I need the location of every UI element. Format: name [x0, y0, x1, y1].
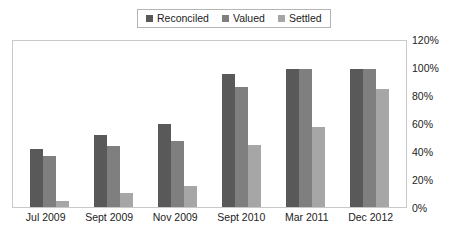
legend-swatch-icon: [146, 15, 153, 22]
bar-group: [94, 41, 133, 207]
y-axis-tick: 120%: [412, 35, 439, 46]
bar-valued[interactable]: [171, 141, 184, 207]
x-axis-tick: Sept 2010: [217, 212, 265, 223]
y-axis-tick: 20%: [412, 175, 433, 186]
x-axis-tick: Mar 2011: [285, 212, 329, 223]
bar-reconciled[interactable]: [222, 74, 235, 207]
bar-reconciled[interactable]: [350, 69, 363, 207]
legend-item-settled[interactable]: Settled: [278, 13, 322, 24]
bar-settled[interactable]: [184, 186, 197, 207]
y-axis-tick: 60%: [412, 119, 433, 130]
y-axis-tick: 0%: [412, 203, 427, 214]
legend-item-valued[interactable]: Valued: [222, 13, 265, 24]
plot-frame: [12, 40, 407, 208]
bar-reconciled[interactable]: [30, 149, 43, 207]
x-axis-tick: Dec 2012: [348, 212, 393, 223]
bar-group: [158, 41, 197, 207]
bar-valued[interactable]: [363, 69, 376, 207]
x-axis: Jul 2009Sept 2009Nov 2009Sept 2010Mar 20…: [12, 212, 407, 232]
bar-group: [286, 41, 325, 207]
bar-valued[interactable]: [107, 146, 120, 207]
legend-label: Settled: [289, 13, 322, 24]
bar-reconciled[interactable]: [158, 124, 171, 207]
bar-reconciled[interactable]: [286, 69, 299, 207]
bar-valued[interactable]: [43, 156, 56, 207]
x-axis-tick: Nov 2009: [153, 212, 198, 223]
plot-area: [13, 41, 406, 207]
y-axis: 0%20%40%60%80%100%120%: [412, 40, 460, 208]
bar-valued[interactable]: [299, 69, 312, 207]
bar-group: [222, 41, 261, 207]
bar-group: [30, 41, 69, 207]
bar-group: [350, 41, 389, 207]
legend-swatch-icon: [278, 15, 285, 22]
bar-chart: Reconciled Valued Settled 0%20%40%60%80%…: [0, 0, 463, 242]
y-axis-tick: 40%: [412, 147, 433, 158]
bar-reconciled[interactable]: [94, 135, 107, 207]
legend-item-reconciled[interactable]: Reconciled: [146, 13, 209, 24]
chart-legend: Reconciled Valued Settled: [137, 9, 331, 28]
x-axis-tick: Jul 2009: [26, 212, 66, 223]
bar-settled[interactable]: [376, 89, 389, 207]
bar-valued[interactable]: [235, 87, 248, 207]
legend-swatch-icon: [222, 15, 229, 22]
x-axis-tick: Sept 2009: [85, 212, 133, 223]
legend-label: Valued: [233, 13, 265, 24]
bar-settled[interactable]: [248, 145, 261, 207]
y-axis-tick: 80%: [412, 91, 433, 102]
y-axis-tick: 100%: [412, 63, 439, 74]
bar-settled[interactable]: [312, 127, 325, 207]
bar-settled[interactable]: [56, 201, 69, 207]
legend-label: Reconciled: [157, 13, 209, 24]
bar-settled[interactable]: [120, 193, 133, 207]
